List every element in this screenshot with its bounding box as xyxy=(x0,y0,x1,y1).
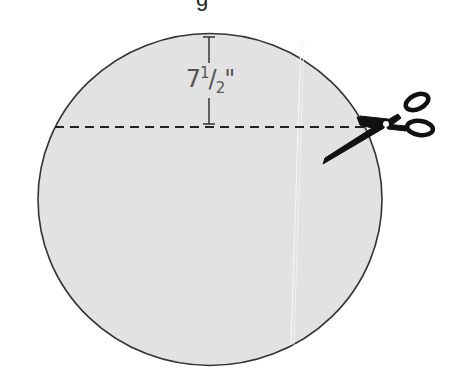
dimension-label: 71/2" xyxy=(180,64,240,97)
dimension-numerator: 1 xyxy=(200,64,209,82)
dimension-denominator: 2 xyxy=(216,79,225,97)
dimension-unit: " xyxy=(224,65,234,93)
diagram-canvas xyxy=(0,0,450,383)
dimension-whole: 7 xyxy=(186,65,200,93)
